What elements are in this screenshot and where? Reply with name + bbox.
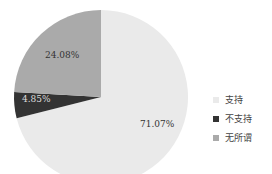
legend-label: 支持: [225, 93, 243, 106]
slice-label: 24.08%: [45, 50, 80, 60]
legend: 支持 不支持 无所谓: [213, 90, 252, 147]
legend-swatch: [213, 135, 219, 141]
slice-label: 71.07%: [140, 119, 175, 129]
legend-label: 无所谓: [225, 131, 252, 144]
legend-item-indifferent: 无所谓: [213, 128, 252, 147]
slice-label: 4.85%: [22, 94, 51, 104]
legend-swatch: [213, 116, 219, 122]
legend-item-oppose: 不支持: [213, 109, 252, 128]
legend-item-support: 支持: [213, 90, 252, 109]
legend-label: 不支持: [225, 112, 252, 125]
pie-chart: 71.07%4.85%24.08%: [0, 0, 272, 174]
legend-swatch: [213, 97, 219, 103]
